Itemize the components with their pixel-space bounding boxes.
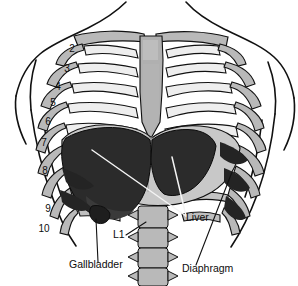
rib-number-7: 7 (41, 137, 47, 148)
label-gallbladder: Gallbladder (69, 258, 123, 270)
label-l1: L1 (113, 228, 125, 240)
rib-number-8: 8 (42, 165, 48, 176)
anatomy-figure: 2 3 4 5 6 7 8 9 10 Liver L1 Gallbladder … (0, 0, 298, 286)
rib-number-4: 4 (55, 81, 61, 92)
rib-number-3: 3 (64, 63, 70, 74)
rib-number-5: 5 (50, 97, 56, 108)
rib-number-9: 9 (45, 203, 51, 214)
rib-number-10: 10 (38, 223, 50, 234)
thorax-illustration: 2 3 4 5 6 7 8 9 10 Liver L1 Gallbladder … (0, 0, 298, 286)
rib-number-2: 2 (69, 43, 75, 54)
rib-number-6: 6 (45, 116, 51, 127)
label-liver: Liver (186, 211, 209, 223)
label-diaphragm: Diaphragm (182, 262, 234, 274)
